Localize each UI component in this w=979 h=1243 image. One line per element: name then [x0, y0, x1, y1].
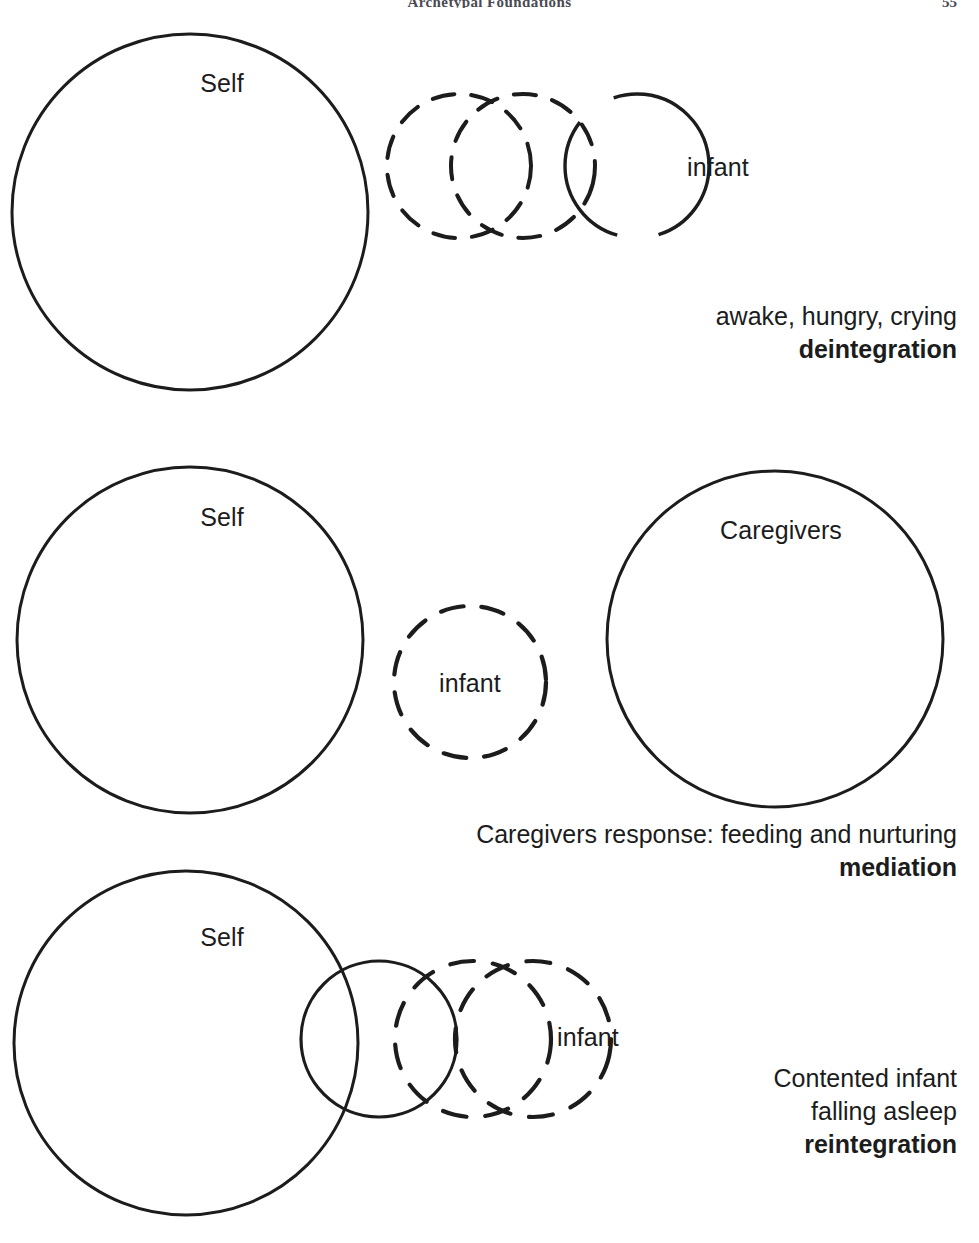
panel3-caption-line2: falling asleep — [774, 1095, 957, 1128]
panel3-infant-trail-circle-1 — [395, 961, 551, 1117]
panel1-caption-line2: deintegration — [716, 333, 957, 366]
panel3-caption-line1: Contented infant — [774, 1062, 957, 1095]
panel1-caption: awake, hungry, crying deintegration — [716, 300, 957, 366]
panel3-infant-label: infant — [557, 1023, 619, 1052]
figure-page: Archetypal Foundations 55 Self inf — [0, 0, 979, 1243]
panel1-infant-trail-circle-1 — [387, 94, 531, 238]
panel1-infant-trail-circle-2 — [436, 79, 611, 254]
panel-reintegration-shapes — [14, 871, 626, 1215]
panel2-caption: Caregivers response: feeding and nurturi… — [476, 818, 957, 884]
figure-artwork — [0, 0, 979, 1243]
panel2-self-circle — [17, 467, 363, 813]
panel-deintegration-shapes — [12, 34, 709, 390]
panel2-self-label: Self — [200, 503, 243, 532]
panel2-caregivers-label: Caregivers — [720, 516, 842, 545]
panel2-caption-line2: mediation — [476, 851, 957, 884]
panel1-self-circle — [12, 34, 368, 390]
panel2-infant-label: infant — [439, 669, 501, 698]
panel3-caption-line3: reintegration — [774, 1128, 957, 1161]
panel3-caption: Contented infant falling asleep reintegr… — [774, 1062, 957, 1161]
panel2-caption-line1: Caregivers response: feeding and nurturi… — [476, 818, 957, 851]
panel1-infant-label: infant — [687, 153, 749, 182]
panel1-self-label: Self — [200, 69, 243, 98]
panel1-caption-line1: awake, hungry, crying — [716, 300, 957, 333]
panel3-infant-circle — [301, 961, 457, 1117]
panel3-self-circle — [14, 871, 358, 1215]
panel3-self-label: Self — [200, 923, 243, 952]
